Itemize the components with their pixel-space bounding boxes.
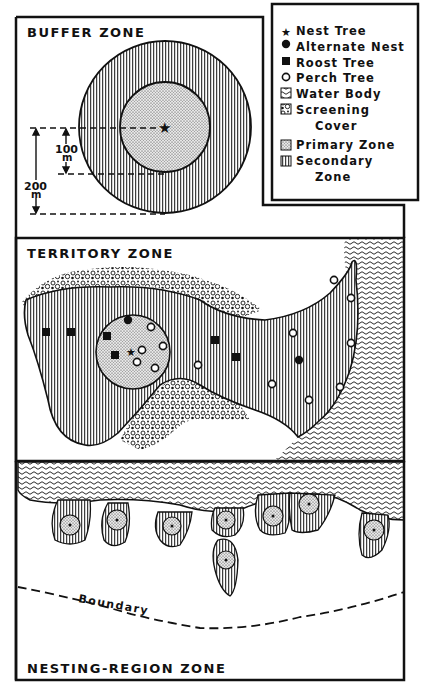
legend-wave-pattern-icon	[281, 88, 291, 98]
outer-radius-unit: m	[31, 189, 41, 200]
legend-shrub-pattern-icon	[281, 104, 291, 114]
nest-territory	[289, 493, 335, 533]
legend-filled-circle-icon	[282, 40, 290, 48]
nest-territory	[155, 512, 192, 547]
nest-tree-star-icon: ★	[126, 346, 136, 358]
legend-label-roost-tree: Roost Tree	[296, 56, 375, 70]
inner-radius-unit: m	[62, 152, 72, 163]
dimension-arrows	[33, 129, 69, 213]
legend-label-cover: Cover	[315, 119, 357, 133]
legend-stipple-pattern-icon	[281, 140, 291, 150]
roost-tree-icon	[111, 351, 119, 359]
legend-open-circle-icon	[282, 73, 289, 80]
legend-filled-square-icon	[282, 57, 290, 65]
nest-territory	[359, 513, 389, 558]
boundary-line	[18, 587, 404, 628]
legend-label-secondary: Secondary	[296, 154, 373, 168]
nest-territories	[52, 493, 389, 596]
roost-tree-icon	[232, 353, 240, 361]
legend: ★ Nest Tree Alternate Nest Roost Tree Pe…	[272, 4, 418, 200]
alternate-nest-icon	[124, 316, 132, 324]
nest-tree-star-icon: ★	[158, 119, 171, 136]
nest-territory	[255, 493, 290, 535]
buffer-zone-title: BUFFER ZONE	[27, 25, 145, 40]
territory-zone-title: TERRITORY ZONE	[27, 246, 174, 261]
legend-label-alternate-nest: Alternate Nest	[296, 40, 405, 54]
habitat-zones-diagram: BUFFER ZONE ★ 100 m 200 m ★	[0, 0, 422, 694]
nest-territory	[213, 539, 238, 596]
legend-label-water-body: Water Body	[296, 87, 381, 101]
boundary-label: Boundary	[77, 592, 150, 617]
roost-tree-icon	[67, 328, 75, 336]
nesting-region-panel: Boundary NESTING-REGION ZONE	[16, 461, 404, 680]
territory-zone-panel: TERRITORY ZONE ★	[16, 238, 404, 461]
legend-label-nest-tree: Nest Tree	[296, 24, 367, 38]
legend-label-primary-zone: Primary Zone	[296, 138, 395, 152]
roost-tree-icon	[42, 328, 50, 336]
legend-vertical-hatch-icon	[281, 156, 291, 166]
legend-star-icon: ★	[281, 26, 291, 38]
legend-label-screening: Screening	[296, 103, 370, 117]
roost-tree-icon	[103, 332, 111, 340]
nest-territory	[211, 508, 243, 537]
nesting-region-title: NESTING-REGION ZONE	[27, 661, 226, 676]
legend-label-perch-tree: Perch Tree	[296, 71, 375, 85]
alternate-nest-icon	[295, 356, 303, 364]
nest-territory	[52, 500, 90, 544]
legend-label-zone: Zone	[315, 170, 351, 184]
nest-territory	[102, 503, 130, 546]
roost-tree-icon	[211, 336, 219, 344]
